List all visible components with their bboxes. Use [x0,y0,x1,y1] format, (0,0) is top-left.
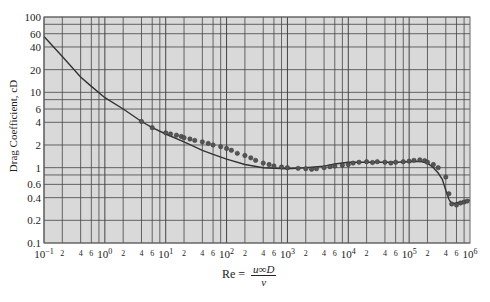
data-point [431,162,435,166]
x-axis-label: Re = u∞D ν [222,263,276,288]
x-minor-tick-label: 6 [394,249,398,258]
x-minor-tick-label: 2 [60,249,64,258]
data-point [340,163,344,167]
data-point [322,165,326,169]
y-tick-label: 1 [36,162,42,174]
x-minor-tick-label: 2 [121,249,125,258]
data-point [444,175,448,179]
x-minor-tick-label: 2 [182,249,186,258]
x-tick-label: 10−1 [34,247,54,260]
data-point [375,160,379,164]
data-point [188,137,192,141]
data-point [224,146,228,150]
x-minor-tick-label: 4 [261,249,265,258]
data-point [314,166,318,170]
x-tick-label: 103 [280,247,295,260]
data-point [425,160,429,164]
y-axis-tick-labels: 1006040201064210.60.40.20.1 [25,11,42,249]
x-minor-tick-label: 2 [425,249,429,258]
y-tick-label: 10 [30,86,42,98]
x-minor-tick-label: 4 [322,249,326,258]
x-axis-tick-labels: 10−1246100246101246102246103246104246105… [34,247,477,260]
data-point [182,135,186,139]
y-axis-label: Drag Coefficient, cD [7,61,19,191]
x-minor-tick-label: 6 [150,249,154,258]
x-minor-tick-label: 6 [211,249,215,258]
x-minor-tick-label: 2 [304,249,308,258]
y-tick-label: 4 [36,116,42,128]
data-point [357,160,361,164]
x-tick-label: 105 [402,247,417,260]
data-point [272,164,276,168]
x-minor-tick-label: 4 [383,249,387,258]
x-tick-label: 100 [97,247,112,260]
data-point [333,164,337,168]
data-point [389,161,393,165]
y-tick-label: 0.4 [27,192,41,204]
y-tick-label: 0.2 [27,214,41,226]
x-tick-label: 102 [219,247,234,260]
x-minor-tick-label: 6 [89,249,93,258]
x-tick-label: 101 [158,247,173,260]
drag-coefficient-chart: 1006040201064210.60.40.20.1 10−124610024… [0,0,490,302]
data-point [150,125,154,129]
y-tick-label: 0.6 [27,178,41,190]
x-axis-label-lhs: Re = [222,267,245,281]
y-tick-label: 6 [36,103,42,115]
y-tick-label: 60 [30,28,42,40]
x-axis-label-numerator: u∞D [251,263,276,276]
data-point [229,148,233,152]
data-point [285,165,289,169]
x-axis-label-fraction: u∞D ν [251,263,276,288]
data-point [206,141,210,145]
data-point [465,199,469,203]
x-tick-label: 106 [463,247,478,260]
data-point [235,151,239,155]
data-point [139,119,143,123]
data-point [364,160,368,164]
data-point [351,161,355,165]
x-axis-label-denominator: ν [251,276,276,288]
data-point [164,131,168,135]
data-point [418,158,422,162]
x-tick-label: 104 [341,247,356,260]
data-point [449,202,453,206]
data-point [346,162,350,166]
x-minor-tick-label: 4 [139,249,143,258]
data-point [218,144,222,148]
data-point [193,138,197,142]
x-minor-tick-label: 4 [79,249,83,258]
data-point [296,166,300,170]
x-minor-tick-label: 6 [272,249,276,258]
data-point [370,160,374,164]
data-point [243,153,247,157]
data-point [436,165,440,169]
data-point [328,164,332,168]
data-point [279,165,283,169]
data-point [261,161,265,165]
x-minor-tick-label: 4 [200,249,204,258]
data-point [454,203,458,207]
x-minor-tick-label: 2 [365,249,369,258]
x-minor-tick-label: 6 [454,249,458,258]
data-point [447,192,451,196]
data-point [249,156,253,160]
data-point [304,166,308,170]
x-minor-tick-label: 2 [243,249,247,258]
x-minor-tick-label: 6 [333,249,337,258]
data-point [200,140,204,144]
data-point [174,133,178,137]
data-point [401,160,405,164]
y-tick-label: 100 [25,11,42,23]
data-point [309,167,313,171]
data-point [383,160,387,164]
data-point [407,159,411,163]
y-tick-label: 40 [30,41,42,53]
y-tick-label: 2 [36,139,42,151]
data-point [168,132,172,136]
data-point [412,158,416,162]
x-minor-tick-label: 4 [444,249,448,258]
data-point [393,160,397,164]
data-point [253,158,257,162]
data-point [267,162,271,166]
